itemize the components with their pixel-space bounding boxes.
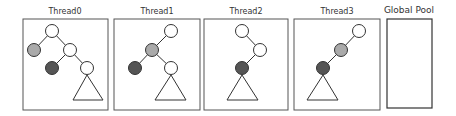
tree-node-white [165,25,178,38]
panel-title: Thread3 [319,7,353,16]
panel-global-pool: Global Pool [384,5,434,108]
panel-title: Thread1 [139,7,173,16]
tree-node-white [353,25,366,38]
subtree-triangle [307,75,338,100]
tree-node-dark [317,62,330,75]
tree-node-white [165,62,178,75]
panel-thread3: Thread3 [294,7,380,110]
tree-node-dark [236,62,249,75]
panel-thread1: Thread1 [114,7,200,110]
tree-node-white [81,62,94,75]
tree-node-dark [129,62,142,75]
panel-title: Thread2 [228,7,262,16]
panel-title: Thread0 [47,7,81,16]
tree-node-white [46,25,59,38]
tree-node-gray [28,44,41,57]
thread-pool-diagram: Thread0 Thread1 Thread2 [0,0,456,116]
tree-node-white [64,44,77,57]
tree-node-gray [146,44,159,57]
subtree-triangle [73,75,103,100]
tree-node-dark [46,62,59,75]
panel-thread0: Thread0 [23,7,108,110]
tree-node-white [236,25,249,38]
panel-thread2: Thread2 [204,7,288,110]
tree-node-white [254,44,267,57]
panel-box [294,19,380,110]
global-pool-box [387,19,432,108]
tree-edges [34,31,87,68]
panel-title: Global Pool [384,5,434,15]
tree-node-gray [335,44,348,57]
subtree-triangle [227,75,258,100]
subtree-triangle [155,75,186,100]
